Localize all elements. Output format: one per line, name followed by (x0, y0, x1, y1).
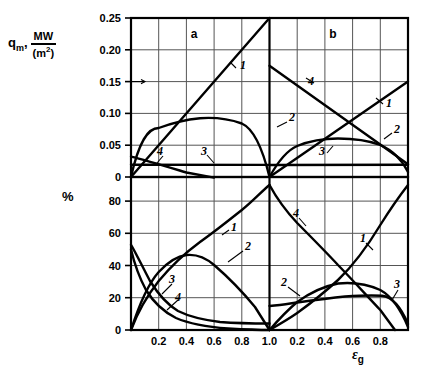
y-tick-labels-top: 0.25 0.20 0.15 0.10 0.05 0 (100, 12, 121, 183)
y-axis-unit-den-open: (m (33, 46, 46, 58)
y-axis-unit-den-close: ) (51, 46, 55, 58)
y-tick-top-2: 0.15 (100, 76, 121, 88)
y-tick-bot-2: 40 (109, 260, 121, 272)
y-axis-symbol: qm, (8, 36, 28, 53)
x-tick-5: 0.2 (290, 335, 305, 347)
label-a-top-1: 1 (240, 58, 246, 72)
x-tick-7: 0.6 (345, 335, 360, 347)
curves-panel-b-bottom (270, 185, 409, 330)
chart-figure: 0.25 0.20 0.15 0.10 0.05 0 80 60 40 20 0… (0, 0, 427, 372)
y-axis-unit-denominator: (m2) (31, 45, 57, 59)
panel-label-a: a (191, 27, 198, 41)
curve-number-labels (157, 62, 398, 310)
label-b-top-1: 1 (386, 96, 392, 110)
y-tick-top-1: 0.20 (100, 44, 121, 56)
x-tick-1: 0.4 (179, 335, 195, 347)
y-axis-symbol-sub: m (16, 42, 24, 52)
curve-b-bot-2 (270, 283, 409, 330)
y-axis-title-bottom: % (62, 190, 74, 204)
label-b-bot-3: 3 (393, 277, 400, 291)
label-b-bot-4: 4 (292, 206, 299, 220)
label-b-top-2: 2 (393, 122, 400, 136)
x-axis-title: εg (352, 347, 364, 365)
label-b-top-4: 4 (307, 74, 314, 88)
x-axis-title-sub: g (358, 354, 364, 365)
y-tick-top-0: 0.25 (100, 12, 121, 24)
label-a-bot-1: 1 (231, 220, 237, 234)
x-tick-6: 0.4 (317, 335, 333, 347)
label-b-bot-1: 1 (360, 231, 366, 245)
label-b-top-3: 3 (318, 144, 325, 158)
y-tick-top-5: 0 (115, 171, 121, 183)
x-tick-4: 1.0 (262, 335, 277, 347)
x-tick-3: 0.8 (234, 335, 249, 347)
x-tick-2: 0.6 (206, 335, 221, 347)
y-tick-bot-3: 20 (109, 292, 121, 304)
y-axis-symbol-q: q (8, 35, 16, 50)
curve-b-top-2 (270, 139, 409, 178)
label-a-top-2: 2 (288, 110, 295, 124)
curve-number-text: 1 2 3 4 1 2 3 4 1 2 3 4 1 2 3 4 (156, 58, 400, 304)
y-tick-bot-4: 0 (115, 324, 121, 336)
y-axis-unit-fraction: MW (m2) (31, 30, 57, 58)
y-axis-title-top: qm, MW (m2) (8, 30, 56, 58)
label-a-top-4: 4 (156, 144, 163, 158)
curve-b-bot-4 (270, 185, 396, 330)
y-axis-symbol-comma: , (24, 35, 28, 50)
x-tick-0: 0.2 (151, 335, 166, 347)
panel-label-b: b (329, 27, 336, 41)
x-tick-8: 0.8 (373, 335, 388, 347)
y-tick-labels-bottom: 80 60 40 20 0 (109, 195, 121, 336)
y-tick-top-4: 0.05 (100, 139, 121, 151)
curves-panel-a-bottom (131, 185, 270, 330)
y-tick-bot-0: 80 (109, 195, 121, 207)
x-tick-labels: 0.2 0.4 0.6 0.8 1.0 0.2 0.4 0.6 0.8 (151, 335, 388, 347)
label-a-bot-3: 3 (168, 272, 175, 286)
y-axis-unit-numerator: MW (32, 30, 56, 43)
label-a-bot-4: 4 (174, 290, 181, 304)
curve-a-top-4 (131, 157, 214, 178)
label-b-bot-2: 2 (280, 275, 287, 289)
label-a-bot-2: 2 (244, 239, 251, 253)
label-a-top-3: 3 (200, 144, 207, 158)
y-tick-bot-1: 60 (109, 227, 121, 239)
y-tick-top-3: 0.10 (100, 107, 121, 119)
